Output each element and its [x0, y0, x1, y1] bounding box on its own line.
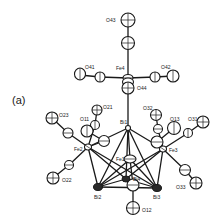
label-fe2: Fe2: [74, 146, 83, 152]
atom-o12: [127, 202, 140, 215]
label-bi2: Bi2: [94, 194, 101, 200]
atom-o42: [167, 70, 179, 82]
atom-o33: [190, 177, 202, 189]
atom-o43: [121, 13, 135, 27]
label-o44: O44: [137, 85, 147, 91]
atom-bi2: [94, 184, 103, 191]
label-o13: O13: [170, 116, 180, 122]
atom-o44: [122, 82, 134, 94]
atom-o41: [75, 68, 86, 80]
label-fe1: Fe1: [116, 156, 125, 162]
atom-c42: [150, 72, 160, 82]
label-bi1: Bi1: [120, 119, 127, 125]
atom-o21: [92, 105, 102, 115]
atom-o31: [197, 116, 209, 128]
atom-c31: [184, 129, 193, 138]
atom-o22: [47, 172, 59, 184]
molecular-structure-figure: (a) O43 O41 Fe4 O42 O44 O21 O23 O11 Bi1 …: [0, 0, 221, 222]
atom-bi3: [153, 185, 162, 192]
label-o31: O31: [188, 116, 198, 122]
label-o33: O33: [176, 184, 186, 190]
label-o43: O43: [106, 17, 116, 23]
atom-fe3: [160, 146, 167, 152]
label-fe4: Fe4: [116, 65, 125, 71]
atom-c22: [65, 161, 74, 170]
atom-c11: [99, 136, 110, 147]
atom-o23: [46, 112, 58, 124]
atom-c32: [154, 125, 163, 134]
label-o11: O11: [80, 116, 89, 122]
atom-o32: [151, 110, 162, 121]
atom-fe1: [124, 155, 136, 163]
atom-bi1: [126, 126, 131, 131]
label-fe3: Fe3: [169, 147, 178, 153]
label-o22: O22: [62, 177, 72, 183]
label-o23: O23: [59, 112, 69, 118]
atom-c41: [95, 72, 105, 82]
label-o32: O32: [143, 105, 153, 111]
atom-o11: [81, 125, 93, 137]
panel-label: (a): [12, 94, 25, 106]
label-o42: O42: [161, 64, 171, 70]
atom-c43: [122, 37, 135, 50]
atom-fe2: [85, 144, 92, 150]
label-o12: O12: [142, 207, 152, 213]
atom-c23: [63, 128, 73, 138]
label-bi3: Bi3: [153, 194, 160, 200]
label-o21: O21: [103, 104, 113, 110]
label-o41: O41: [85, 64, 95, 70]
label-bi4: Bi4: [133, 176, 140, 182]
atom-c33: [180, 165, 191, 176]
atom-o13: [168, 122, 181, 135]
ortep-diagram: (a) O43 O41 Fe4 O42 O44 O21 O23 O11 Bi1 …: [0, 0, 221, 222]
